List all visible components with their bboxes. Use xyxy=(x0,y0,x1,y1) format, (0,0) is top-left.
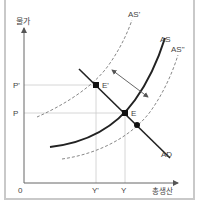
p-prime-label: P' xyxy=(13,81,20,90)
shift-arrow xyxy=(112,70,148,97)
point-e xyxy=(122,110,128,116)
p-label: P xyxy=(13,109,18,118)
as-curve xyxy=(50,38,165,147)
y-axis-label: 물가 xyxy=(16,17,31,26)
e-label: E xyxy=(131,109,136,118)
point-e-double-prime xyxy=(134,122,140,128)
y-label: Y xyxy=(121,186,127,195)
as-label: AS xyxy=(160,35,171,44)
as-prime-curve xyxy=(37,20,132,117)
as-double-prime-curve xyxy=(62,55,178,159)
as-prime-label: AS' xyxy=(128,10,141,19)
ad-label: AD xyxy=(161,150,172,159)
y-prime-label: Y' xyxy=(92,186,99,195)
x-axis-label: 총생산 xyxy=(152,186,173,196)
point-e-prime xyxy=(93,82,99,88)
origin-label: 0 xyxy=(18,186,23,195)
as-ad-diagram: 물가 총생산 0 P' P Y' Y E' E AS' AS AS" AD xyxy=(0,0,202,205)
as-double-prime-label: AS" xyxy=(171,45,185,54)
e-prime-label: E' xyxy=(102,81,109,90)
